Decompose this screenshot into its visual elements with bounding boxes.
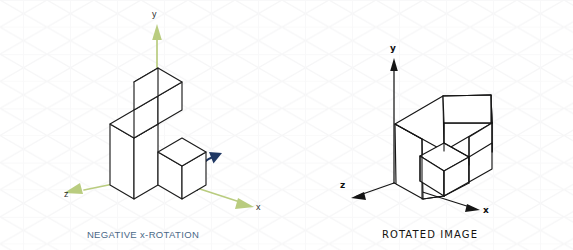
panel-rotated-image: y z x ROTATED IMAGE [287, 0, 573, 250]
panel-caption-rotated-image: ROTATED IMAGE [287, 229, 573, 240]
y-axis-arrowhead-icon [390, 58, 398, 71]
z-axis-label: z [64, 190, 69, 199]
y-axis-label: y [390, 44, 396, 53]
y-axis-label: y [152, 10, 157, 19]
panel-negative-x-rotation: y z x NEGATIVE x-ROTATION [0, 0, 286, 250]
x-axis-label: x [483, 206, 489, 215]
x-axis-arrowhead-icon [465, 204, 480, 212]
z-axis-arrowhead-icon [351, 192, 366, 200]
solid-stepped-block [110, 68, 206, 199]
x-axis-label: x [256, 203, 261, 212]
negative-x-rotation-diagram [0, 0, 286, 250]
rotated-image-diagram [287, 0, 573, 250]
panel-caption-negative-x-rotation: NEGATIVE x-ROTATION [0, 229, 286, 240]
z-axis-label: z [340, 181, 345, 190]
y-axis-arrowhead-icon [152, 24, 162, 40]
figure-canvas: y z x NEGATIVE x-ROTATION [0, 0, 573, 250]
x-axis-arrowhead-icon [235, 198, 254, 209]
